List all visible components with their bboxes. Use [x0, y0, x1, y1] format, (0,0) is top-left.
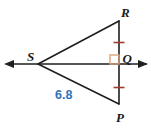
measurement-label-SP: 6.8: [55, 88, 72, 102]
point-label-P: P: [116, 110, 125, 125]
geometry-diagram: R S Q P 6.8: [0, 0, 151, 128]
point-label-Q: Q: [123, 51, 133, 66]
point-label-R: R: [120, 5, 130, 20]
segment-SP: [38, 64, 119, 104]
right-arrowhead-icon: [138, 60, 148, 68]
point-label-S: S: [27, 49, 34, 64]
left-arrowhead-icon: [4, 60, 14, 68]
segment-SR: [38, 21, 119, 64]
right-angle-marker: [110, 55, 119, 64]
diagram-canvas: R S Q P 6.8: [0, 0, 151, 128]
